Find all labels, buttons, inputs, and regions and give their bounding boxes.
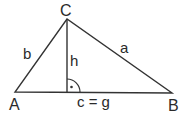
- side-label-c: c = g: [77, 93, 110, 110]
- vertex-label-b: B: [168, 97, 179, 114]
- side-label-b: b: [23, 45, 31, 62]
- right-angle-arc: [67, 79, 80, 92]
- height-label-h: h: [70, 52, 78, 69]
- triangle: [15, 19, 172, 93]
- triangle-diagram: C A B b a c = g h: [0, 0, 195, 121]
- right-angle-dot: [70, 86, 73, 89]
- side-label-a: a: [120, 39, 129, 56]
- vertex-label-c: C: [60, 2, 72, 19]
- vertex-label-a: A: [9, 96, 20, 113]
